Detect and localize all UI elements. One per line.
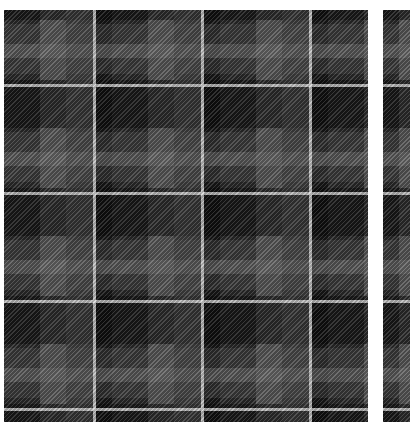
twill-texture [4, 10, 368, 422]
tartan-swatch-main [4, 10, 368, 422]
twill-texture [383, 10, 410, 422]
tartan-swatch-side [383, 10, 410, 422]
